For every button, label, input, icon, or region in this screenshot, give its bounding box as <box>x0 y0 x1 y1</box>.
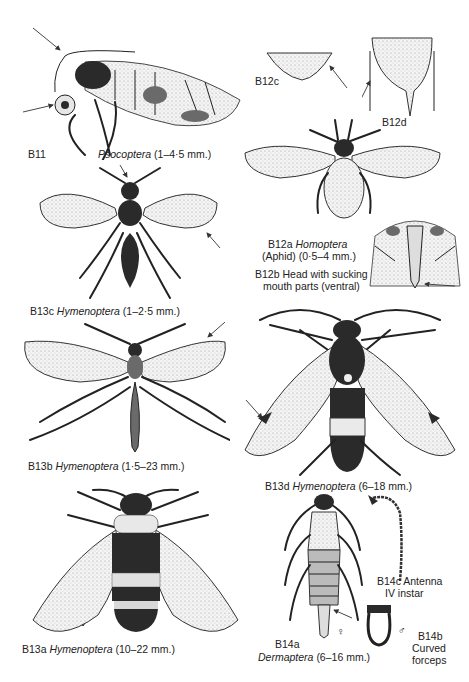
size-range: (10–22 mm.) <box>115 643 175 655</box>
female-symbol: ♀ <box>337 625 345 637</box>
figure-b14c-caption: B14c Antenna <box>377 575 442 587</box>
caption-line2: mouth parts (ventral) <box>263 280 360 292</box>
order-name: Hymenoptera <box>49 643 112 655</box>
figure-b12b-caption: B12b Head with sucking <box>255 268 368 280</box>
figure-code: B13c <box>30 305 54 317</box>
figure-b14a-caption: B14a <box>275 638 300 650</box>
size-range: (1–4·5 mm.) <box>154 148 211 160</box>
figure-b14a-earwig-illustration <box>270 490 380 640</box>
figure-code: B14a <box>275 638 300 650</box>
figure-b12b-head-illustration <box>365 206 465 296</box>
figure-b11-order: Psocoptera (1–4·5 mm.) <box>98 148 211 160</box>
figure-b14b-caption: B14b <box>418 630 443 642</box>
caption-line1: Antenna <box>403 575 442 587</box>
male-symbol: ♂ <box>398 624 406 636</box>
figure-b13d-hymenoptera-illustration <box>240 300 465 480</box>
order-name: Hymenoptera <box>55 460 118 472</box>
figure-code: B12a <box>268 238 293 250</box>
order-name: Hymenoptera <box>57 305 120 317</box>
size-range: (1·5–23 mm.) <box>121 460 184 472</box>
figure-b13a-bumblebee-illustration <box>28 480 243 640</box>
figure-b14b-forceps-illustration <box>365 603 395 648</box>
figure-b14c-antenna-illustration <box>368 493 413 583</box>
size-range: (1–2·5 mm.) <box>123 305 180 317</box>
figure-b14a-sex-symbol: ♀ <box>337 625 345 637</box>
figure-code: B12b <box>255 268 280 280</box>
figure-b13c-caption: B13c Hymenoptera (1–2·5 mm.) <box>30 305 180 317</box>
figure-b11-psocoptera-illustration <box>15 20 245 160</box>
figure-b12b-caption-line2: mouth parts (ventral) <box>263 280 360 292</box>
figure-code: B13b <box>28 460 53 472</box>
order-name: Psocoptera <box>98 148 151 160</box>
figure-b14b-sex-symbol: ♂ <box>398 624 406 636</box>
figure-b12a-caption: B12a Homoptera <box>268 238 347 250</box>
figure-code: B13a <box>22 643 47 655</box>
figure-b14a-order: Dermaptera (6–16 mm.) <box>258 651 370 663</box>
figure-b13c-hymenoptera-illustration <box>35 163 225 303</box>
common-name: (Aphid) <box>262 250 296 262</box>
caption-line1: Curved <box>412 642 446 654</box>
size-range: (0·5–4 mm.) <box>299 250 356 262</box>
figure-code: B14c <box>377 575 401 587</box>
figure-b14c-caption-line2: IV instar <box>385 587 424 599</box>
figure-b13b-hymenoptera-illustration <box>20 322 230 452</box>
figure-b14b-caption-line3: forceps <box>412 654 446 666</box>
figure-b12c-caption: B12c <box>255 75 279 87</box>
order-name: Dermaptera <box>258 651 313 663</box>
figure-b12d-illustration <box>362 36 442 121</box>
figure-b13a-caption: B13a Hymenoptera (10–22 mm.) <box>22 643 175 655</box>
order-name: Homoptera <box>295 238 347 250</box>
figure-code: B14b <box>418 630 443 642</box>
figure-b13b-caption: B13b Hymenoptera (1·5–23 mm.) <box>28 460 184 472</box>
figure-code: B11 <box>28 148 46 160</box>
caption-line2: IV instar <box>385 587 424 599</box>
figure-b12a-subcaption: (Aphid) (0·5–4 mm.) <box>262 250 356 262</box>
figure-b11-caption: B11 <box>28 148 46 160</box>
size-range: (6–16 mm.) <box>316 651 370 663</box>
caption-line2: forceps <box>412 654 446 666</box>
caption-line1: Head with sucking <box>282 268 367 280</box>
figure-b14b-caption-line2: Curved <box>412 642 446 654</box>
figure-code: B12c <box>255 75 279 87</box>
